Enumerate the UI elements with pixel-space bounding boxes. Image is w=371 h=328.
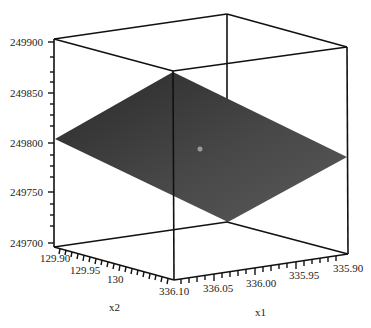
x1-tick-label: 335.95 [289,269,320,281]
x2-tick-label: 130 [107,273,124,285]
z-axis-ticks [48,42,54,243]
x1-axis-title: x1 [255,306,266,318]
x2-tick-label: 129.95 [70,264,101,276]
z-tick-label: 249750 [10,186,44,198]
x1-tick-label: 336.10 [159,285,190,297]
z-tick-label: 249800 [10,137,44,149]
z-tick-label: 249900 [10,36,44,48]
x1-tick-label: 336.05 [203,282,234,294]
x1-tick-label: 335.90 [333,262,364,274]
x2-tick-label: 129.90 [40,252,71,264]
z-tick-label: 249700 [10,237,44,249]
x2-axis-title: x2 [109,301,120,313]
z-tick-label: 249850 [10,87,44,99]
highlight-point [198,147,203,152]
x1-tick-label: 336.00 [246,277,277,289]
surface-plot: 249900 249850 249800 249750 249700 129.9… [0,0,371,328]
